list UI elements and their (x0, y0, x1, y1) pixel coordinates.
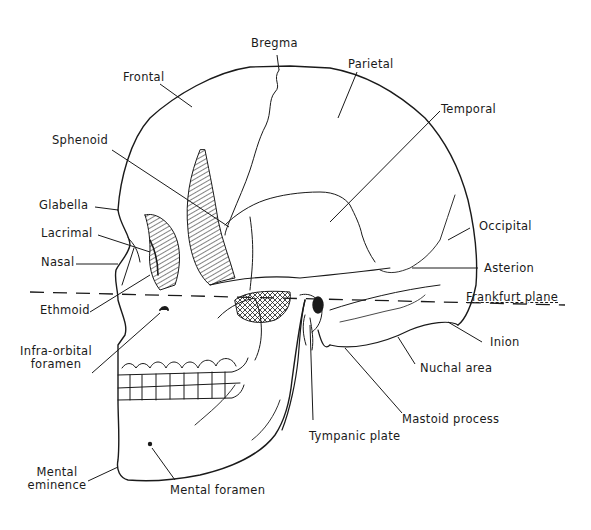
label-mastoid-process: Mastoid process (402, 413, 499, 426)
label-inion: Inion (490, 336, 520, 349)
label-occipital: Occipital (479, 220, 532, 233)
label-glabella: Glabella (39, 199, 88, 212)
label-parietal: Parietal (348, 58, 394, 71)
sphenoid-hatch (187, 150, 235, 285)
nasal-bone (122, 238, 140, 285)
label-nasal: Nasal (41, 256, 74, 269)
label-mental-eminence-line2: eminence (28, 478, 87, 492)
mental-foramen (149, 443, 152, 446)
label-asterion: Asterion (484, 262, 534, 275)
label-bregma: Bregma (251, 37, 298, 50)
label-infra-orbital-foramen: Infra-orbital foramen (16, 345, 96, 371)
orbit (145, 214, 180, 290)
label-mental-eminence-line1: Mental (37, 465, 78, 479)
zygomatic-arch (210, 268, 390, 285)
label-temporal: Temporal (441, 103, 496, 116)
label-frontal: Frontal (123, 71, 164, 84)
label-mental-foramen: Mental foramen (170, 484, 265, 497)
infraorbital-foramen (160, 307, 168, 310)
label-sphenoid: Sphenoid (52, 134, 108, 147)
label-mental-eminence: Mental eminence (22, 466, 92, 492)
label-frankfurt-plane: Frankfurt plane (466, 291, 558, 304)
label-lacrimal: Lacrimal (41, 227, 93, 240)
coronal-suture (225, 70, 279, 235)
lambdoid-suture (380, 195, 455, 273)
zygomatic-hatch (235, 291, 290, 322)
skull-diagram: Bregma Frontal Parietal Temporal Sphenoi… (0, 0, 591, 530)
label-infra-orbital-line1: Infra-orbital (20, 344, 92, 358)
squamosal-suture (225, 192, 375, 262)
label-ethmoid: Ethmoid (40, 304, 90, 317)
label-nuchal-area: Nuchal area (420, 362, 492, 375)
label-tympanic-plate: Tympanic plate (309, 430, 400, 443)
label-infra-orbital-line2: foramen (31, 357, 82, 371)
